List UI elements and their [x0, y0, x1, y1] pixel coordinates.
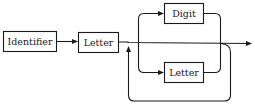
node-identifier-label: Identifier [8, 36, 53, 47]
node-letter-first-label: Letter [84, 37, 114, 48]
edge-digit-to-merge [204, 14, 221, 44]
node-letter-loop: Letter [165, 63, 204, 83]
edge-branch-to-digit [139, 14, 164, 43]
node-letter-first: Letter [79, 33, 119, 53]
node-identifier: Identifier [4, 32, 57, 52]
identifier-syntax-diagram: Identifier Letter Digit Letter [0, 0, 255, 106]
node-digit-label: Digit [172, 8, 196, 19]
edge-branch-to-letter-loop [139, 43, 164, 73]
node-digit: Digit [165, 4, 204, 24]
edge-letter-loop-to-merge [204, 43, 221, 73]
node-letter-loop-label: Letter [169, 67, 199, 78]
